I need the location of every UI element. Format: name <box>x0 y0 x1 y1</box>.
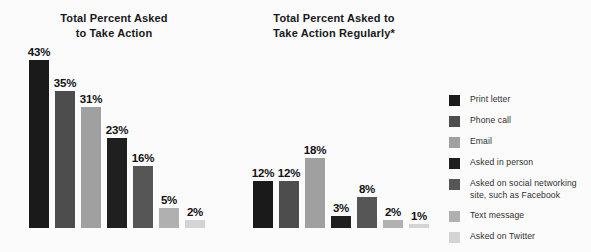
bar-value-label: 18% <box>304 144 326 156</box>
legend-swatch-icon <box>449 179 460 190</box>
chart-panel-total-asked-regularly: Total Percent Asked to Take Action Regul… <box>228 0 440 252</box>
bar-value-label: 1% <box>411 210 427 222</box>
chart-panel-total-asked: Total Percent Asked to Take Action 43%35… <box>0 0 228 252</box>
legend-item-label: Asked on social networking site, such as… <box>470 178 577 201</box>
bar <box>185 220 205 228</box>
bar <box>81 107 101 228</box>
bar-value-label: 43% <box>28 46 50 58</box>
bar-value-label: 12% <box>252 167 274 179</box>
plot-area-left: 43%35%31%23%16%5%2% <box>0 0 228 252</box>
bar-group: 16% <box>133 166 153 229</box>
bar-group: 3% <box>331 216 351 228</box>
bar-value-label: 35% <box>54 77 76 89</box>
chart-figure: Total Percent Asked to Take Action 43%35… <box>0 0 591 252</box>
bar-value-label: 2% <box>385 206 401 218</box>
plot-area-right: 12%12%18%3%8%2%1% <box>228 0 440 252</box>
legend-swatch-icon <box>449 116 460 127</box>
legend-item[interactable]: Asked on Twitter <box>449 231 535 243</box>
bar-group: 35% <box>55 91 75 228</box>
bar <box>107 138 127 228</box>
bar <box>133 166 153 229</box>
legend-item[interactable]: Text message <box>449 210 524 222</box>
bar <box>55 91 75 228</box>
bar-group: 23% <box>107 138 127 228</box>
bar <box>279 181 299 228</box>
bar-group: 12% <box>279 181 299 228</box>
legend-swatch-icon <box>449 158 460 169</box>
bar <box>331 216 351 228</box>
bar-value-label: 12% <box>278 167 300 179</box>
legend-item-label: Asked in person <box>470 157 533 169</box>
legend-item-label: Phone call <box>470 115 511 127</box>
bar-value-label: 16% <box>132 152 154 164</box>
legend-item-label: Print letter <box>470 94 510 106</box>
bar-group: 2% <box>185 220 205 228</box>
bar <box>409 224 429 228</box>
legend-item[interactable]: Phone call <box>449 115 511 127</box>
bar <box>383 220 403 228</box>
bar-group: 18% <box>305 158 325 228</box>
legend-item-label: Asked on Twitter <box>470 231 535 243</box>
bar-value-label: 3% <box>333 202 349 214</box>
legend-swatch-icon <box>449 95 460 106</box>
legend-swatch-icon <box>449 137 460 148</box>
legend-item[interactable]: Asked in person <box>449 157 533 169</box>
legend-item[interactable]: Asked on social networking site, such as… <box>449 178 577 201</box>
bar-value-label: 8% <box>359 183 375 195</box>
legend-swatch-icon <box>449 232 460 243</box>
bar-group: 8% <box>357 197 377 228</box>
bar-value-label: 31% <box>80 93 102 105</box>
bar-value-label: 5% <box>161 194 177 206</box>
legend-item[interactable]: Email <box>449 136 492 148</box>
bar <box>29 60 49 228</box>
bar <box>159 208 179 228</box>
bar-group: 1% <box>409 224 429 228</box>
bar <box>357 197 377 228</box>
bar-group: 43% <box>29 60 49 228</box>
legend-item[interactable]: Print letter <box>449 94 510 106</box>
bar <box>305 158 325 228</box>
bar-value-label: 23% <box>106 124 128 136</box>
bar-group: 2% <box>383 220 403 228</box>
bar <box>253 181 273 228</box>
legend-item-label: Text message <box>470 210 524 222</box>
bar-group: 12% <box>253 181 273 228</box>
legend-swatch-icon <box>449 211 460 222</box>
legend-item-label: Email <box>470 136 492 148</box>
bar-group: 31% <box>81 107 101 228</box>
bar-group: 5% <box>159 208 179 228</box>
bar-value-label: 2% <box>187 206 203 218</box>
